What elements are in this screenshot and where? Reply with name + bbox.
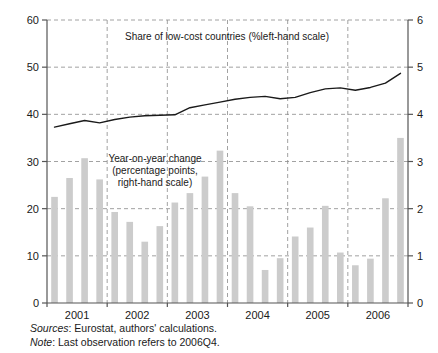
- left-tick-label-30: 30: [27, 156, 39, 168]
- right-tick-label-5: 5: [417, 61, 423, 73]
- bar-2001Q2: [66, 178, 73, 303]
- note-footnote: Note: Last observation refers to 2006Q4.: [30, 336, 430, 349]
- line-series-annotation: Share of low-cost countries (%left-hand …: [125, 31, 329, 42]
- right-tick-label-3: 3: [417, 156, 423, 168]
- x-tick-label-2005: 2005: [306, 309, 330, 321]
- left-axis-ticks: 0102030405060: [27, 14, 47, 309]
- right-tick-label-0: 0: [417, 297, 423, 309]
- bar-2003Q1: [172, 203, 179, 303]
- left-tick-label-10: 10: [27, 250, 39, 262]
- bar-2005Q1: [292, 237, 299, 304]
- bar-2001Q3: [81, 158, 88, 303]
- bar-2006Q3: [382, 198, 389, 303]
- bar-2001Q1: [51, 197, 58, 303]
- right-tick-label-6: 6: [417, 14, 423, 26]
- x-tick-label-2006: 2006: [366, 309, 390, 321]
- bar-series-annotation-line2: (percentage points,: [112, 165, 198, 176]
- bar-2006Q2: [367, 259, 374, 303]
- bar-2004Q4: [277, 258, 284, 303]
- note-text: : Last observation refers to 2006Q4.: [52, 336, 220, 348]
- x-tick-label-2002: 2002: [125, 309, 149, 321]
- bar-2004Q2: [247, 206, 254, 303]
- sources-text: : Eurostat, authors' calculations.: [69, 322, 218, 334]
- note-label: Note: [30, 336, 52, 348]
- bar-2002Q4: [157, 226, 164, 303]
- right-tick-label-4: 4: [417, 108, 423, 120]
- bar-2005Q4: [337, 253, 344, 303]
- x-tick-label-2001: 2001: [65, 309, 89, 321]
- bar-2006Q1: [352, 265, 359, 303]
- bar-series-annotation-line3: right-hand scale): [118, 177, 192, 188]
- chart-figure: 0102030405060 0123456 200120022003200420…: [0, 0, 438, 353]
- bar-2002Q2: [126, 222, 133, 303]
- right-axis-ticks: 0123456: [408, 14, 423, 309]
- bar-2004Q3: [262, 270, 269, 303]
- bar-2002Q1: [111, 212, 118, 303]
- bar-series-annotation-line1: Year-on-year change: [108, 153, 201, 164]
- left-tick-label-50: 50: [27, 61, 39, 73]
- bar-2002Q3: [141, 242, 148, 303]
- x-axis-ticks: 200120022003200420052006: [47, 303, 408, 321]
- bar-2003Q3: [202, 177, 209, 303]
- bar-2005Q2: [307, 228, 314, 303]
- bar-2003Q2: [187, 193, 194, 303]
- left-tick-label-60: 60: [27, 14, 39, 26]
- left-tick-label-0: 0: [33, 297, 39, 309]
- left-tick-label-40: 40: [27, 108, 39, 120]
- bar-2001Q4: [96, 179, 103, 303]
- bar-2006Q4: [397, 138, 404, 303]
- bar-2005Q3: [322, 206, 329, 303]
- right-tick-label-2: 2: [417, 203, 423, 215]
- right-tick-label-1: 1: [417, 250, 423, 262]
- x-tick-label-2004: 2004: [245, 309, 269, 321]
- bar-2003Q4: [217, 151, 224, 303]
- bar-2004Q1: [232, 193, 239, 303]
- x-tick-label-2003: 2003: [185, 309, 209, 321]
- chart-canvas: 0102030405060 0123456 200120022003200420…: [0, 0, 438, 353]
- left-tick-label-20: 20: [27, 203, 39, 215]
- sources-label: Sources: [30, 322, 69, 334]
- sources-footnote: Sources: Eurostat, authors' calculations…: [30, 322, 430, 335]
